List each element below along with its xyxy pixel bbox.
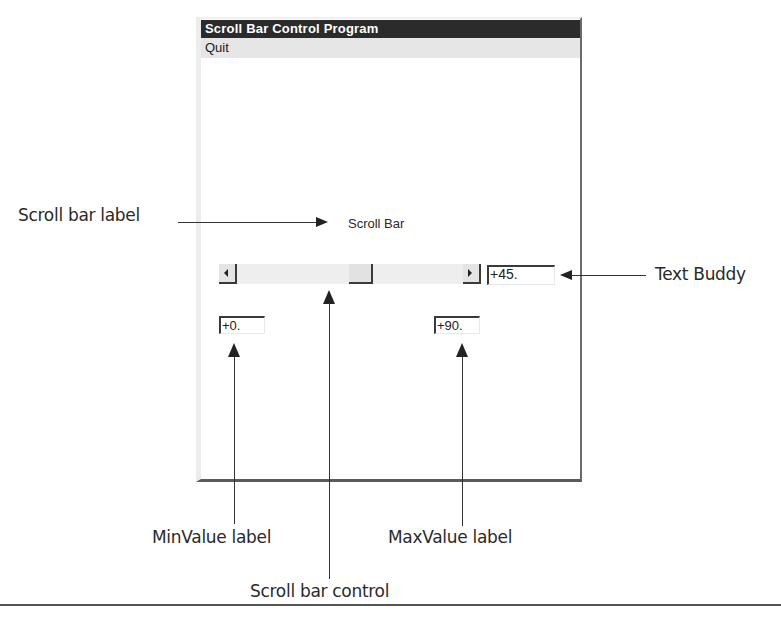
annotation-line xyxy=(329,303,330,579)
annotation-line xyxy=(178,222,318,223)
annotation-line xyxy=(571,275,646,276)
arrowhead-up-icon xyxy=(456,343,468,357)
scroll-bar-label: Scroll Bar xyxy=(348,216,404,231)
title-bar: Scroll Bar Control Program xyxy=(201,20,580,38)
arrowhead-up-icon xyxy=(228,343,240,357)
annotation-line xyxy=(462,356,463,526)
right-arrow-icon xyxy=(468,269,472,277)
annotation-scroll-bar-label: Scroll bar label xyxy=(18,205,140,225)
annotation-max-value-label: MaxValue label xyxy=(388,527,512,547)
annotation-scroll-bar-control: Scroll bar control xyxy=(250,581,389,601)
arrowhead-right-icon xyxy=(316,217,328,227)
text-buddy-field[interactable]: +45. xyxy=(487,265,555,285)
menu-item-quit[interactable]: Quit xyxy=(205,40,229,55)
max-value-label: +90. xyxy=(434,316,480,334)
page-divider xyxy=(0,604,781,606)
app-window: Scroll Bar Control Program Quit Scroll B… xyxy=(196,17,582,482)
scroll-thumb[interactable] xyxy=(349,264,373,284)
annotation-text-buddy: Text Buddy xyxy=(655,264,746,284)
scroll-left-button[interactable] xyxy=(219,264,237,284)
menu-bar: Quit xyxy=(201,38,580,58)
min-value-label: +0. xyxy=(219,316,265,334)
left-arrow-icon xyxy=(224,269,228,277)
scroll-right-button[interactable] xyxy=(463,264,481,284)
annotation-line xyxy=(234,356,235,524)
scroll-bar-control[interactable] xyxy=(219,264,481,284)
window-title: Scroll Bar Control Program xyxy=(205,21,379,36)
arrowhead-up-icon xyxy=(323,290,335,304)
annotation-min-value-label: MinValue label xyxy=(152,527,271,547)
